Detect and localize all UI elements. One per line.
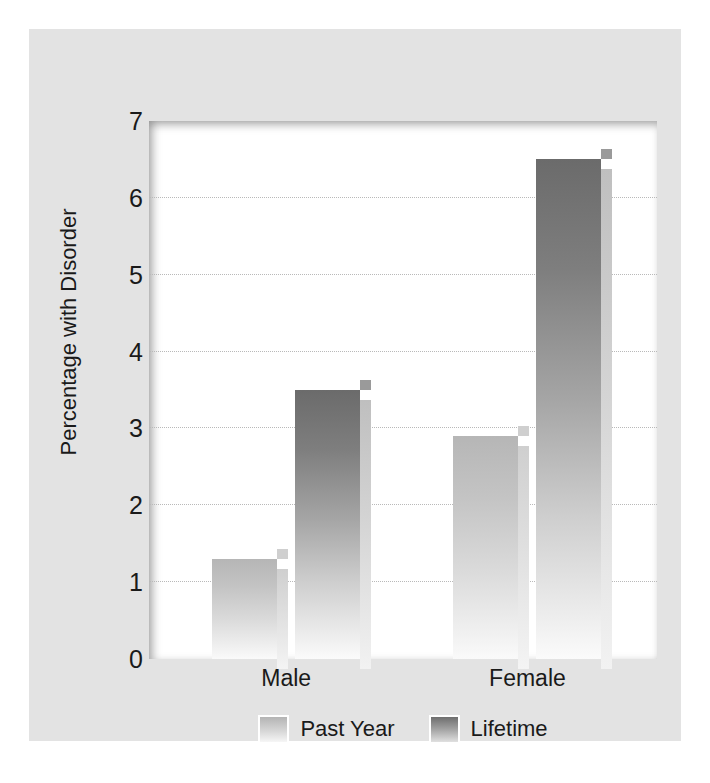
plot-inner xyxy=(149,121,657,659)
x-axis-labels: MaleFemale xyxy=(149,665,657,699)
chart-legend: Past YearLifetime xyxy=(149,709,657,749)
legend-entry-past-year: Past Year xyxy=(258,715,394,744)
y-tick-label: 6 xyxy=(129,185,143,210)
y-tick-label: 2 xyxy=(129,493,143,518)
bar-male-past-year xyxy=(212,559,277,659)
bar-side-face xyxy=(518,446,529,669)
bar-face xyxy=(212,559,277,659)
y-tick-label: 5 xyxy=(129,262,143,287)
chart-figure: Percentage with Disorder 01234567 MaleFe… xyxy=(0,0,710,783)
y-axis-title: Percentage with Disorder xyxy=(56,182,82,482)
y-tick-label: 1 xyxy=(129,570,143,595)
bar-top-face xyxy=(601,149,612,159)
legend-label: Past Year xyxy=(300,716,394,742)
y-tick-label: 7 xyxy=(129,109,143,134)
bar-male-lifetime xyxy=(295,390,360,659)
legend-swatch xyxy=(429,715,460,744)
x-axis-label-male: Male xyxy=(261,665,311,692)
bar-face xyxy=(453,436,518,659)
plot-area xyxy=(149,121,657,659)
bar-side-face xyxy=(360,400,371,669)
bar-side-face xyxy=(277,569,288,669)
bar-top-face xyxy=(277,549,288,559)
legend-swatch xyxy=(258,715,289,744)
bar-face xyxy=(536,159,601,659)
bar-female-past-year xyxy=(453,436,518,659)
y-tick-label: 0 xyxy=(129,647,143,672)
bar-side-face xyxy=(601,169,612,669)
legend-label: Lifetime xyxy=(471,716,548,742)
bar-top-face xyxy=(360,380,371,390)
x-axis-label-female: Female xyxy=(489,665,566,692)
y-axis-ticks: 01234567 xyxy=(115,121,143,659)
y-tick-label: 3 xyxy=(129,416,143,441)
y-tick-label: 4 xyxy=(129,339,143,364)
bar-face xyxy=(295,390,360,659)
chart-panel: Percentage with Disorder 01234567 MaleFe… xyxy=(29,29,681,741)
bar-female-lifetime xyxy=(536,159,601,659)
legend-entry-lifetime: Lifetime xyxy=(429,715,548,744)
bar-top-face xyxy=(518,426,529,436)
